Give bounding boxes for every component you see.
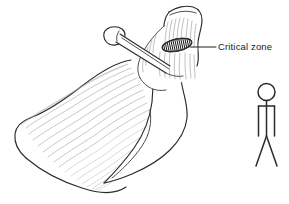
critical-zone-label: Critical zone <box>218 41 272 52</box>
figure-root: Critical zone <box>0 0 289 204</box>
stick-figure-right-leg <box>267 136 278 166</box>
anatomy-illustration: Critical zone <box>0 0 289 204</box>
stick-figure-head <box>258 84 275 101</box>
stick-figure-left-leg <box>256 136 267 166</box>
scale-stick-figure <box>256 84 277 167</box>
